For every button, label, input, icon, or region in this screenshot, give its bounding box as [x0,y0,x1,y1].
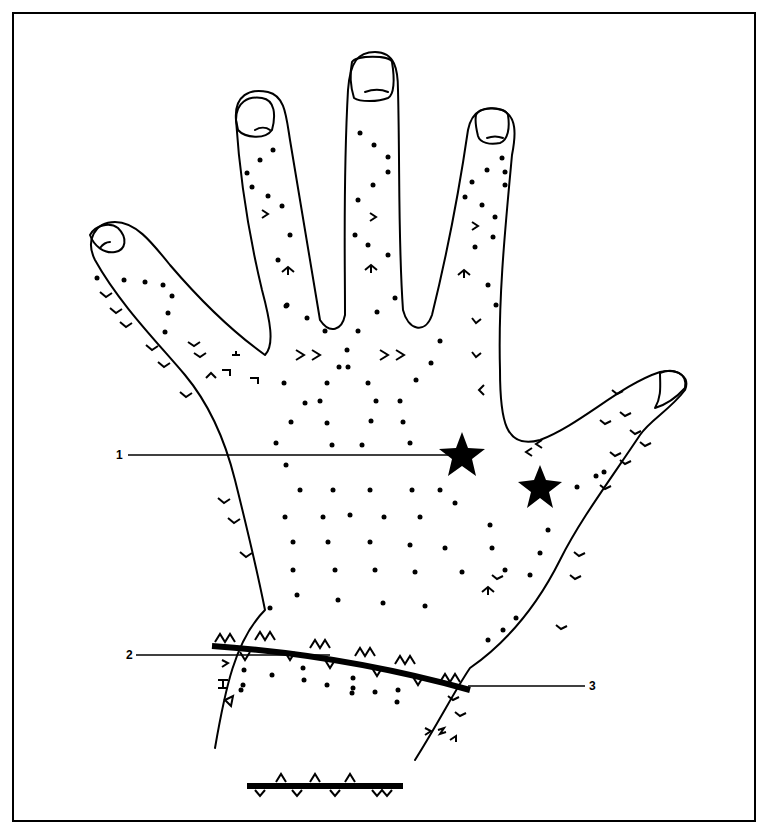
scale-bar-with-markers [247,774,403,796]
label-3: 3 [589,679,596,693]
label-2: 2 [126,648,133,662]
middle-nail [351,57,394,101]
pinky-nail [655,371,685,408]
dot-pattern [95,131,607,705]
star-marker-palm [439,432,485,476]
star-markers [439,432,562,508]
label-1: 1 [116,448,123,462]
chevron-pattern [100,210,651,742]
hand-diagram [0,0,770,837]
thumb-nail [90,225,124,252]
star-marker-thenar [518,465,562,508]
